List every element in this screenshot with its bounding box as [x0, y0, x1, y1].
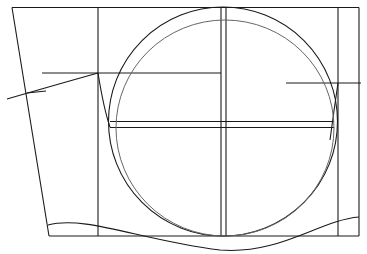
left-curve: [7, 73, 98, 99]
line-drawing: [0, 0, 367, 254]
left-slanted-edge: [12, 8, 49, 237]
